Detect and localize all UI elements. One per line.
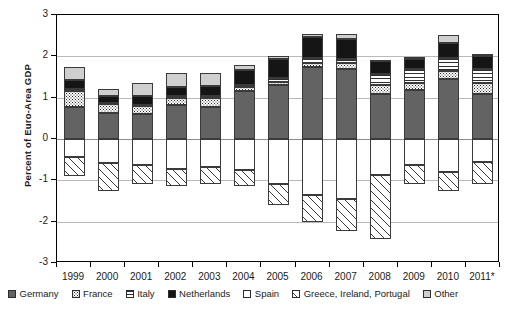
legend-swatch-icon [292, 290, 300, 298]
bar-segment [132, 105, 153, 107]
bar-group [234, 15, 255, 263]
bar-segment [234, 85, 255, 87]
bar-segment [438, 139, 459, 172]
bar-segment [404, 165, 425, 185]
bar-segment [302, 63, 323, 67]
bar-segment [336, 39, 357, 60]
x-tick-mark [465, 262, 466, 267]
x-tick-mark [295, 262, 296, 267]
bar-segment [370, 94, 391, 139]
x-tick-mark [499, 262, 500, 267]
legend-label: Netherlands [179, 289, 230, 299]
bar-segment [98, 163, 119, 191]
y-tick-label: -3 [22, 257, 48, 267]
bar-segment [98, 113, 119, 139]
legend-label: France [83, 289, 113, 299]
bar-segment [302, 67, 323, 139]
plot-area [56, 14, 499, 262]
bar-segment [268, 82, 289, 85]
legend-item[interactable]: Greece, Ireland, Portugal [292, 289, 410, 299]
bar-segment [234, 91, 255, 139]
legend-swatch-icon [423, 290, 431, 298]
legend-item[interactable]: Other [423, 289, 458, 299]
legend-item[interactable]: Germany [8, 289, 59, 299]
bar-segment [370, 60, 391, 62]
bar-segment [336, 59, 357, 63]
bar-segment [98, 89, 119, 96]
bar-segment [336, 199, 357, 231]
bar-segment [132, 139, 153, 165]
bar-segment [166, 169, 187, 186]
x-tick-mark [226, 262, 227, 267]
bar-segment [370, 139, 391, 175]
bar-segment [200, 167, 221, 184]
bar-segment [268, 139, 289, 184]
bar-segment [132, 114, 153, 139]
x-tick-mark [158, 262, 159, 267]
legend-item[interactable]: Spain [243, 289, 279, 299]
bar-segment [302, 139, 323, 195]
bar-segment [200, 139, 221, 167]
y-tick-label: 1 [22, 92, 48, 102]
bar-segment [404, 59, 425, 69]
bar-segment [336, 34, 357, 39]
legend-swatch-icon [168, 290, 176, 298]
legend-label: Germany [20, 289, 59, 299]
bar-segment [438, 79, 459, 139]
bar-segment [200, 73, 221, 86]
bar-segment [336, 63, 357, 68]
bar-segment [64, 80, 85, 89]
bar-segment [268, 184, 289, 205]
bar-segment [64, 157, 85, 176]
bar-segment [404, 139, 425, 165]
legend-swatch-icon [126, 290, 134, 298]
bar-segment [234, 170, 255, 186]
y-tick-label: 0 [22, 133, 48, 143]
bar-segment [438, 71, 459, 79]
x-tick-mark [56, 262, 57, 267]
bar-segment [200, 107, 221, 139]
bar-segment [472, 83, 493, 93]
legend-item[interactable]: Italy [126, 289, 155, 299]
legend-item[interactable]: Netherlands [168, 289, 231, 299]
bar-segment [302, 34, 323, 37]
bar-segment [438, 172, 459, 191]
x-tick-mark [192, 262, 193, 267]
bar-segment [472, 94, 493, 139]
legend-label: Other [434, 289, 458, 299]
bar-segment [302, 58, 323, 63]
bar-segment [64, 89, 85, 91]
bar-group [336, 15, 357, 263]
bar-segment [438, 58, 459, 70]
bar-segment [166, 87, 187, 96]
bar-segment [132, 96, 153, 104]
y-tick-label: -1 [22, 174, 48, 184]
bar-segment [166, 105, 187, 139]
bar-segment [98, 103, 119, 105]
bar-segment [268, 56, 289, 59]
x-tick-mark [431, 262, 432, 267]
bar-segment [234, 70, 255, 86]
bar-segment [200, 86, 221, 96]
bar-segment [472, 54, 493, 56]
legend-label: Italy [137, 289, 154, 299]
bar-segment [166, 96, 187, 98]
bar-segment [370, 85, 391, 93]
bar-segment [200, 98, 221, 106]
bar-group [302, 15, 323, 263]
bar-segment [472, 69, 493, 83]
bar-segment [268, 59, 289, 78]
y-tick-label: 2 [22, 50, 48, 60]
x-tick-mark [260, 262, 261, 267]
legend-label: Spain [255, 289, 279, 299]
bar-group [132, 15, 153, 263]
x-tick-mark [124, 262, 125, 267]
bar-segment [404, 69, 425, 83]
bar-group [200, 15, 221, 263]
bar-segment [132, 165, 153, 184]
bar-segment [404, 83, 425, 90]
bar-segment [472, 162, 493, 185]
bar-segment [370, 74, 391, 86]
legend-item[interactable]: France [72, 289, 113, 299]
bar-segment [98, 104, 119, 113]
